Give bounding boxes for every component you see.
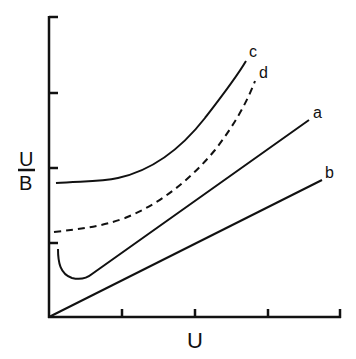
curve-d — [54, 81, 255, 232]
curve-a — [58, 120, 309, 279]
x-axis-label: U — [187, 328, 203, 353]
chart-canvas: c d a b U B U — [0, 0, 356, 359]
curve-c — [56, 61, 246, 183]
y-axis — [49, 16, 58, 318]
curve-label-b: b — [325, 164, 334, 181]
curve-label-d: d — [259, 64, 268, 81]
curve-b — [49, 180, 322, 317]
y-axis-label-numerator: U — [19, 148, 33, 170]
y-axis-label-denominator: B — [19, 172, 32, 194]
curve-label-a: a — [313, 104, 322, 121]
x-axis — [48, 309, 341, 318]
curve-label-c: c — [249, 43, 257, 60]
